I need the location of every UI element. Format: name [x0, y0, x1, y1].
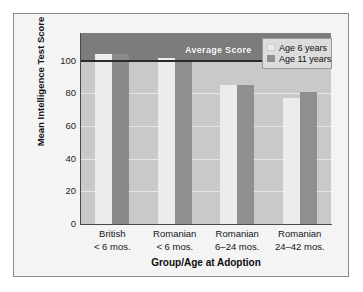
y-tick-label: 80 [50, 88, 76, 98]
x-tick-label-line-1: 24–42 mos. [269, 241, 332, 254]
y-tick-label: 0 [50, 219, 76, 229]
x-tick-label-line-0: Romanian [206, 228, 269, 241]
chart-card: 020406080100 Mean Intelligence Test Scor… [13, 13, 349, 277]
x-tick-label-line-1: < 6 mos. [144, 241, 207, 254]
bar-1-group-3 [300, 92, 317, 224]
bar-1-group-1 [175, 61, 192, 224]
x-tick-label-line-0: Romanian [144, 228, 207, 241]
y-tick-label: 60 [50, 121, 76, 131]
series-0-swatch [267, 44, 275, 51]
x-axis-line [80, 224, 332, 225]
x-tick-label-line-1: 6–24 mos. [206, 241, 269, 254]
x-tick-label-group-2: Romanian6–24 mos. [206, 228, 269, 253]
figure: 020406080100 Mean Intelligence Test Scor… [0, 0, 363, 292]
bar-0-group-1 [158, 58, 175, 225]
x-tick-label-line-0: British [81, 228, 144, 241]
bar-1-group-0 [112, 54, 129, 224]
bar-0-group-2 [220, 85, 237, 224]
bar-0-group-0 [95, 54, 112, 224]
x-tick-label-group-1: Romanian< 6 mos. [144, 228, 207, 253]
x-tick-label-group-3: Romanian24–42 mos. [269, 228, 332, 253]
y-axis-line [80, 33, 81, 225]
y-axis-ticks: 020406080100 [46, 14, 76, 278]
legend-item-0[interactable]: Age 6 years [267, 42, 325, 53]
y-tick-label: 40 [50, 154, 76, 164]
legend-item-label: Age 11 years [279, 54, 331, 64]
legend-item-label: Age 6 years [279, 43, 327, 53]
legend-item-1[interactable]: Age 11 years [267, 53, 325, 64]
legend: Age 6 yearsAge 11 years [262, 38, 332, 69]
x-tick-label-line-0: Romanian [269, 228, 332, 241]
y-tick-label: 100 [50, 56, 76, 66]
bar-1-group-2 [237, 85, 254, 224]
series-1-swatch [267, 55, 275, 62]
y-axis-title: Mean Intelligence Test Score [35, 12, 46, 152]
x-axis-title: Group/Age at Adoption [81, 257, 331, 268]
bar-0-group-3 [283, 98, 300, 224]
x-tick-label-group-0: British< 6 mos. [81, 228, 144, 253]
x-tick-label-line-1: < 6 mos. [81, 241, 144, 254]
y-tick-label: 20 [50, 186, 76, 196]
average-score-label: Average Score [185, 45, 252, 55]
